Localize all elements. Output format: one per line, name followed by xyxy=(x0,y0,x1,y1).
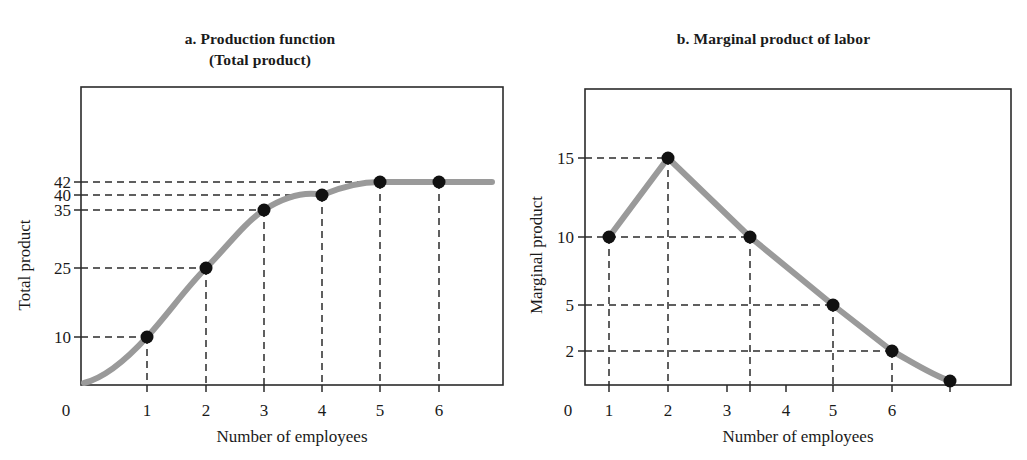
x-tick-label: 4 xyxy=(782,401,791,420)
data-point xyxy=(662,152,675,165)
x-ticks-b xyxy=(609,385,950,392)
x-tick-label: 0 xyxy=(62,401,71,420)
x-tick-label: 6 xyxy=(435,401,444,420)
data-point xyxy=(944,375,957,388)
data-points-b xyxy=(603,152,957,388)
x-tick-label: 0 xyxy=(564,401,573,420)
y-tick-label: 15 xyxy=(557,149,574,168)
data-points-a xyxy=(141,176,446,344)
y-tick-label: 2 xyxy=(566,342,575,361)
x-tick-label: 2 xyxy=(664,401,673,420)
y-tick-label: 5 xyxy=(566,296,575,315)
marginal-product-curve xyxy=(609,158,950,381)
x-tick-label: 5 xyxy=(376,401,385,420)
x-tick-label: 3 xyxy=(260,401,269,420)
x-tick-label: 4 xyxy=(318,401,327,420)
y-tick-label: 10 xyxy=(54,328,71,347)
data-point xyxy=(141,331,154,344)
data-point xyxy=(316,189,329,202)
y-tick-label: 10 xyxy=(557,228,574,247)
y-tick-label: 42 xyxy=(54,173,71,192)
x-tick-label: 5 xyxy=(829,401,838,420)
data-point xyxy=(258,204,271,217)
data-point xyxy=(827,299,840,312)
x-tick-label: 1 xyxy=(605,401,614,420)
data-point xyxy=(200,262,213,275)
total-product-curve xyxy=(84,182,492,383)
chart-b-svg: 2 5 10 15 0 1 2 3 4 5 6 Number of employ… xyxy=(520,0,1027,460)
data-point xyxy=(433,176,446,189)
data-point xyxy=(886,345,899,358)
panel-marginal-product: b. Marginal product of labor xyxy=(520,0,1027,460)
data-point xyxy=(603,231,616,244)
y-ticks-b xyxy=(578,158,585,351)
x-ticks-a xyxy=(147,385,439,392)
data-point xyxy=(744,231,757,244)
x-tick-label: 1 xyxy=(143,401,152,420)
x-tick-label: 2 xyxy=(202,401,211,420)
y-axis-label-a: Total product xyxy=(15,219,34,310)
y-axis-label-b: Marginal product xyxy=(527,196,546,314)
leader-lines-horizontal-b xyxy=(585,158,892,351)
data-point xyxy=(374,176,387,189)
y-tick-label: 25 xyxy=(54,259,71,278)
chart-a-svg: 10 25 35 40 42 0 1 2 3 4 5 6 Number of e… xyxy=(0,0,520,460)
x-axis-label-a: Number of employees xyxy=(216,427,367,446)
x-tick-label: 6 xyxy=(888,401,897,420)
x-tick-label: 3 xyxy=(723,401,732,420)
y-ticks-a xyxy=(74,182,81,337)
panel-production-function: a. Production function (Total product) xyxy=(0,0,520,460)
x-axis-label-b: Number of employees xyxy=(722,427,873,446)
